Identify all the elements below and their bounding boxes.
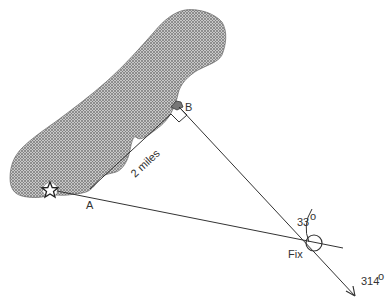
label-bearing-degree: o — [378, 270, 384, 282]
label-angle-degree: o — [310, 210, 316, 222]
label-fix: Fix — [288, 248, 303, 260]
navigation-fix-diagram: B A 2 miles 33 o Fix 314 o — [0, 0, 389, 305]
label-a: A — [86, 199, 94, 211]
label-b: B — [185, 101, 192, 113]
landmass — [10, 10, 226, 198]
course-line — [179, 107, 355, 296]
label-angle: 33 — [297, 216, 309, 228]
label-bearing: 314 — [361, 275, 379, 287]
label-distance: 2 miles — [128, 147, 162, 180]
